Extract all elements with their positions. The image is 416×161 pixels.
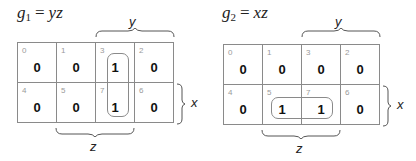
cell-index: 5 — [61, 86, 65, 95]
bottom-brace-icon — [261, 129, 341, 139]
cell-index: 4 — [228, 88, 232, 97]
cell-index: 7 — [306, 88, 310, 97]
cell-index: 1 — [267, 48, 271, 57]
kmap-g1: g1=yz y 00 10 31 20 40 50 71 60 x z — [0, 0, 208, 161]
cell-index: 2 — [345, 48, 349, 57]
title-subscript: 1 — [26, 11, 32, 23]
title-expression: xz — [254, 3, 268, 22]
cell-index: 5 — [267, 88, 271, 97]
row-var-label: x — [191, 95, 198, 110]
bottom-brace-icon — [55, 127, 135, 137]
kmap-cell: 20 — [341, 45, 380, 85]
title-var: g — [222, 3, 231, 22]
cell-value: 0 — [18, 100, 56, 115]
kmap-cell: 30 — [302, 45, 341, 85]
col-var-bottom-label: z — [296, 141, 303, 156]
kmap-g2: g2=xz y 00 10 30 20 40 51 71 60 x z — [208, 0, 416, 161]
cell-index: 3 — [306, 48, 310, 57]
prime-implicant-loop — [271, 97, 333, 119]
cell-value: 0 — [18, 60, 56, 75]
kmap-cell: 60 — [135, 83, 174, 123]
cell-index: 6 — [139, 86, 143, 95]
col-var-bottom-label: z — [90, 139, 97, 154]
kmap-title: g2=xz — [222, 3, 268, 23]
title-equals: = — [35, 3, 45, 22]
title-var: g — [17, 3, 26, 22]
prime-implicant-loop — [107, 53, 129, 117]
col-var-top-label: y — [129, 14, 136, 29]
kmap-cell: 60 — [341, 85, 380, 125]
right-brace-icon — [382, 85, 392, 127]
right-brace-icon — [176, 83, 186, 125]
cell-index: 4 — [22, 86, 26, 95]
cell-index: 2 — [139, 46, 143, 55]
kmap-grid: 00 10 31 20 40 50 71 60 — [17, 42, 174, 123]
cell-index: 3 — [100, 46, 104, 55]
row-var-label: x — [397, 97, 404, 112]
cell-index: 6 — [345, 88, 349, 97]
kmap-cell: 40 — [224, 85, 263, 125]
cell-value: 0 — [302, 62, 340, 77]
title-expression: yz — [49, 3, 63, 22]
cell-value: 0 — [57, 60, 95, 75]
top-brace-icon — [301, 28, 381, 38]
cell-value: 0 — [341, 102, 379, 117]
cell-value: 0 — [224, 62, 262, 77]
kmap-cell: 00 — [18, 43, 57, 83]
kmap-cell: 40 — [18, 83, 57, 123]
cell-value: 0 — [341, 62, 379, 77]
cell-value: 0 — [135, 100, 173, 115]
kmap-title: g1=yz — [17, 3, 63, 23]
cell-value: 0 — [135, 60, 173, 75]
cell-value: 0 — [263, 62, 301, 77]
cell-index: 1 — [61, 46, 65, 55]
kmap-cell: 10 — [57, 43, 96, 83]
title-equals: = — [240, 3, 250, 22]
cell-index: 0 — [228, 48, 232, 57]
col-var-top-label: y — [335, 14, 342, 29]
top-brace-icon — [95, 28, 175, 38]
cell-value: 0 — [57, 100, 95, 115]
cell-value: 0 — [224, 102, 262, 117]
kmap-cell: 10 — [263, 45, 302, 85]
title-subscript: 2 — [231, 11, 237, 23]
kmap-cell: 20 — [135, 43, 174, 83]
cell-index: 0 — [22, 46, 26, 55]
kmap-cell: 50 — [57, 83, 96, 123]
kmap-cell: 00 — [224, 45, 263, 85]
cell-index: 7 — [100, 86, 104, 95]
